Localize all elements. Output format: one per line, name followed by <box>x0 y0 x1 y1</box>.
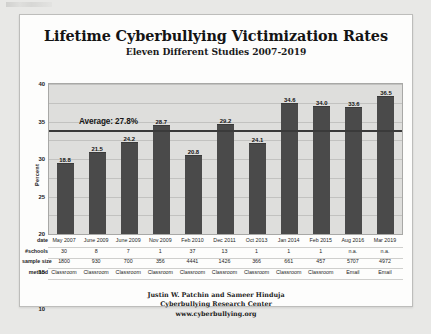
table-cell: June 2009 <box>84 237 109 243</box>
plot-area: 0510152025303540 18.821.524.228.720.829.… <box>48 83 403 235</box>
table-cell: 700 <box>124 258 133 264</box>
table-cell: Classroom <box>244 269 269 275</box>
table-cell: June 2009 <box>116 237 141 243</box>
gridline: 0 <box>49 234 402 235</box>
bar-value-label: 24.1 <box>252 137 263 143</box>
table-cell: Classroom <box>308 269 333 275</box>
y-axis-tick: 30 <box>38 156 45 162</box>
table-cell: Feb 2010 <box>181 237 203 243</box>
table-cell: 4441 <box>187 258 199 264</box>
bar <box>89 152 106 234</box>
table-cell: 1800 <box>58 258 70 264</box>
table-row-label: sample size <box>22 258 48 264</box>
y-axis-tick: 35 <box>38 119 45 125</box>
table-row: methodClassroomClassroomClassroomClassro… <box>20 269 412 280</box>
table-cell: 37 <box>189 248 195 254</box>
table-cell: Classroom <box>276 269 301 275</box>
table-cell: 5707 <box>347 258 359 264</box>
bar <box>153 125 170 234</box>
table-row: sample size18009307003564441142636666145… <box>20 258 412 269</box>
scan-artifact <box>6 2 52 7</box>
bar-value-label: 28.7 <box>156 119 167 125</box>
bar <box>313 106 330 235</box>
bar-value-label: 18.8 <box>59 157 70 163</box>
chart-area: Percent 0510152025303540 18.821.524.228.… <box>20 67 412 306</box>
chart-title: Lifetime Cyberbullying Victimization Rat… <box>20 28 412 43</box>
table-cell: 7 <box>127 248 130 254</box>
bar <box>281 103 298 234</box>
bar-value-label: 34.0 <box>316 100 327 106</box>
table-cell: 356 <box>156 258 165 264</box>
bar <box>217 124 234 235</box>
bar <box>57 163 74 235</box>
chart-card: Lifetime Cyberbullying Victimization Rat… <box>19 14 413 307</box>
table-cell: Classroom <box>180 269 205 275</box>
table-cell: Nov 2009 <box>149 237 172 243</box>
table-cell: 457 <box>316 258 325 264</box>
table-cell: Aug 2016 <box>342 237 365 243</box>
table-cell: 1 <box>255 248 258 254</box>
bar-value-label: 33.6 <box>348 101 359 107</box>
gridline: 40 <box>49 84 402 85</box>
bar <box>345 107 362 234</box>
footer-authors: Justin W. Patchin and Sameer Hinduja <box>20 291 412 300</box>
table-cell: 13 <box>222 248 228 254</box>
table-separator <box>48 279 403 280</box>
table-cell: 1 <box>319 248 322 254</box>
table-cell: Dec 2011 <box>213 237 235 243</box>
table-cell: 930 <box>92 258 101 264</box>
bar <box>377 96 394 234</box>
table-row-label: method <box>22 269 48 275</box>
table-cell: Mar 2019 <box>374 237 396 243</box>
bar <box>185 155 202 234</box>
footer-website: www.cyberbullying.org <box>20 310 412 319</box>
table-cell: Oct 2013 <box>246 237 268 243</box>
table-cell: 366 <box>252 258 261 264</box>
chart-subtitle: Eleven Different Studies 2007-2019 <box>20 46 412 57</box>
table-cell: 1 <box>287 248 290 254</box>
table-cell: Email <box>378 269 391 275</box>
table-cell: n.a. <box>381 248 390 254</box>
average-reference-line <box>49 130 402 132</box>
study-details-table: dateMay 2007June 2009June 2009Nov 2009Fe… <box>20 237 412 283</box>
table-cell: Classroom <box>148 269 173 275</box>
chart-footer: Justin W. Patchin and Sameer Hinduja Cyb… <box>20 291 412 319</box>
bar-value-label: 36.5 <box>380 90 391 96</box>
table-cell: Classroom <box>116 269 141 275</box>
table-row: dateMay 2007June 2009June 2009Nov 2009Fe… <box>20 237 412 248</box>
table-cell: Feb 2015 <box>310 237 332 243</box>
table-row: #schools308713713111n.a.n.a. <box>20 248 412 259</box>
table-cell: Classroom <box>83 269 108 275</box>
table-cell: Jan 2014 <box>278 237 300 243</box>
y-axis-tick: 25 <box>38 194 45 200</box>
table-cell: Classroom <box>212 269 237 275</box>
table-cell: 661 <box>284 258 293 264</box>
y-axis-tick: 40 <box>38 81 45 87</box>
table-cell: 30 <box>61 248 67 254</box>
average-annotation-label: Average: 27.8% <box>79 117 138 126</box>
table-cell: 1 <box>159 248 162 254</box>
bar-value-label: 21.5 <box>91 146 102 152</box>
bar-value-label: 34.6 <box>284 97 295 103</box>
table-cell: May 2007 <box>52 237 75 243</box>
bar <box>121 142 138 234</box>
table-cell: Email <box>346 269 359 275</box>
footer-organization: Cyberbullying Research Center <box>20 300 412 309</box>
table-row-label: date <box>22 237 48 243</box>
table-cell: 4972 <box>379 258 391 264</box>
table-cell: 1426 <box>219 258 231 264</box>
bar-value-label: 20.8 <box>188 149 199 155</box>
bar-value-label: 29.2 <box>220 118 231 124</box>
table-cell: 8 <box>95 248 98 254</box>
bar-value-label: 24.2 <box>123 136 134 142</box>
table-row-label: #schools <box>22 248 48 254</box>
bar <box>249 143 266 234</box>
table-cell: Classroom <box>51 269 76 275</box>
table-cell: n.a. <box>348 248 357 254</box>
